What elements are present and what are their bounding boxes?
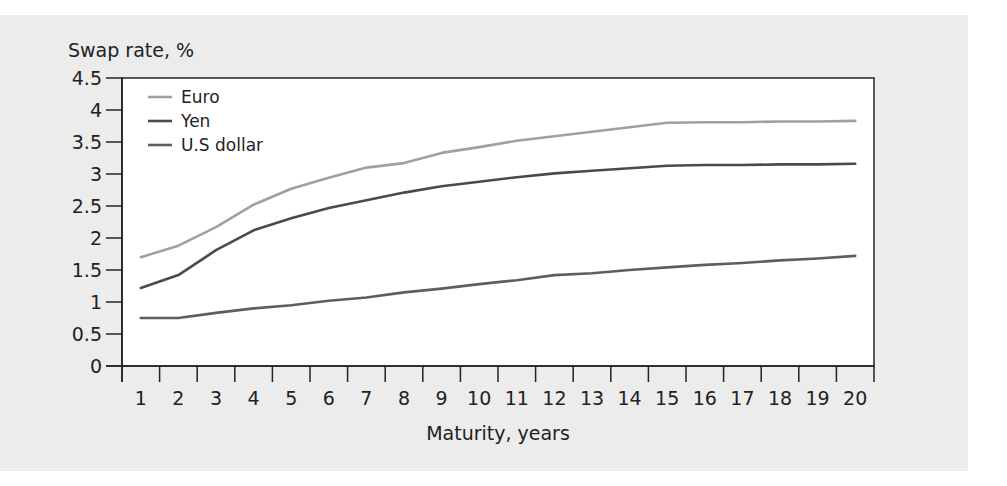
x-tick-label: 15 bbox=[655, 387, 679, 409]
y-tick-label: 4.5 bbox=[72, 67, 102, 89]
y-tick-label: 4 bbox=[90, 99, 102, 121]
x-tick-label: 4 bbox=[248, 387, 260, 409]
x-tick-label: 5 bbox=[285, 387, 297, 409]
x-tick-label: 10 bbox=[467, 387, 491, 409]
y-tick-label: 3.5 bbox=[72, 131, 102, 153]
y-tick-label: 0.5 bbox=[72, 323, 102, 345]
x-tick-label: 6 bbox=[323, 387, 335, 409]
x-tick-label: 11 bbox=[505, 387, 529, 409]
x-tick-label: 9 bbox=[436, 387, 448, 409]
y-tick-label: 3 bbox=[90, 163, 102, 185]
x-tick-label: 7 bbox=[360, 387, 372, 409]
x-tick-label: 14 bbox=[618, 387, 642, 409]
x-tick-label: 1 bbox=[135, 387, 147, 409]
x-tick-label: 12 bbox=[542, 387, 566, 409]
x-tick-label: 16 bbox=[693, 387, 717, 409]
y-axis-title: Swap rate, % bbox=[68, 39, 194, 61]
swap-rate-chart: Swap rate, % Maturity, years 00.511.522.… bbox=[0, 0, 1007, 486]
x-tick-label: 17 bbox=[730, 387, 754, 409]
x-axis-title: Maturity, years bbox=[426, 422, 570, 444]
x-tick-label: 13 bbox=[580, 387, 604, 409]
legend-label: U.S dollar bbox=[181, 135, 263, 155]
chart-svg: Swap rate, % Maturity, years 00.511.522.… bbox=[0, 0, 1007, 486]
x-tick-label: 20 bbox=[843, 387, 867, 409]
legend-label: Yen bbox=[180, 111, 210, 131]
y-tick-label: 1 bbox=[90, 291, 102, 313]
legend-label: Euro bbox=[181, 87, 220, 107]
y-tick-label: 0 bbox=[90, 355, 102, 377]
x-tick-label: 18 bbox=[768, 387, 792, 409]
y-tick-label: 1.5 bbox=[72, 259, 102, 281]
y-tick-label: 2.5 bbox=[72, 195, 102, 217]
x-tick-label: 2 bbox=[172, 387, 184, 409]
x-tick-label: 8 bbox=[398, 387, 410, 409]
y-tick-label: 2 bbox=[90, 227, 102, 249]
x-tick-label: 19 bbox=[806, 387, 830, 409]
x-tick-label: 3 bbox=[210, 387, 222, 409]
